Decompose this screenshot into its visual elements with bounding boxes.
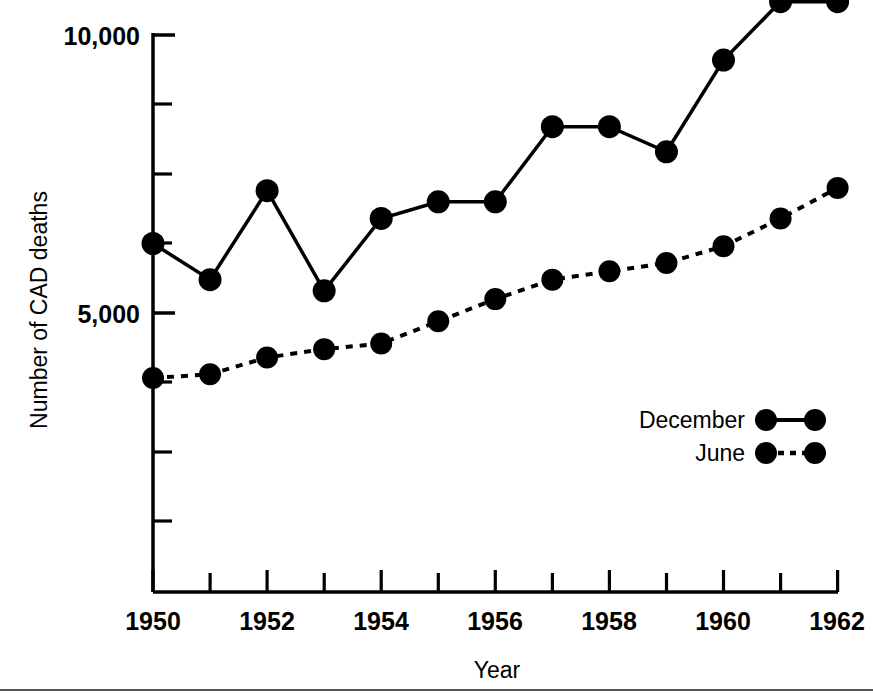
data-point	[427, 310, 449, 332]
data-point	[827, 177, 849, 199]
data-point	[713, 235, 735, 257]
series-december-line	[153, 2, 838, 291]
x-tick-label-1962: 1962	[809, 607, 865, 635]
legend-swatch-december	[755, 409, 826, 431]
figure-bottom-rule	[0, 689, 873, 691]
x-tick-label-1950: 1950	[125, 607, 181, 635]
june-polyline	[153, 188, 838, 378]
data-point	[256, 179, 279, 202]
data-point	[484, 190, 507, 213]
series-june-line	[153, 188, 838, 378]
legend-label-december: December	[639, 407, 745, 433]
legend-label-june: June	[695, 440, 745, 466]
data-point	[256, 346, 278, 368]
x-tick-label-1958: 1958	[581, 607, 637, 635]
data-point	[655, 252, 677, 274]
data-point	[598, 260, 620, 282]
data-point	[313, 279, 336, 302]
x-axis-ticks	[153, 570, 838, 592]
data-point	[484, 288, 506, 310]
data-point	[199, 363, 221, 385]
cad-deaths-line-chart: 10,000 5,000 1950 1952 1954 1956 1958 19…	[0, 0, 873, 700]
x-tick-label-1960: 1960	[695, 607, 751, 635]
data-point	[370, 207, 393, 230]
x-tick-label-1954: 1954	[353, 607, 409, 635]
data-point	[142, 367, 164, 389]
legend-marker-december-right	[804, 409, 826, 431]
y-axis-ticks	[153, 35, 175, 521]
data-point	[826, 0, 849, 13]
data-point	[712, 49, 735, 72]
december-data-points	[142, 0, 850, 302]
legend-swatch-june	[755, 442, 826, 464]
x-axis-tick-labels: 1950 1952 1954 1956 1958 1960 1962	[125, 607, 865, 635]
data-point	[655, 140, 678, 163]
x-axis-title: Year	[474, 657, 521, 683]
data-point	[199, 268, 222, 291]
data-point	[370, 333, 392, 355]
data-point	[427, 190, 450, 213]
data-point	[770, 207, 792, 229]
legend-marker-june-right	[804, 442, 826, 464]
data-point	[541, 269, 563, 291]
y-tick-label-10000: 10,000	[64, 22, 140, 50]
december-polyline	[153, 2, 838, 291]
data-point	[142, 232, 165, 255]
axis-lines	[153, 33, 838, 592]
data-point	[598, 115, 621, 138]
chart-figure: 10,000 5,000 1950 1952 1954 1956 1958 19…	[0, 0, 873, 700]
data-point	[313, 338, 335, 360]
chart-legend: December June	[639, 407, 826, 466]
x-tick-label-1952: 1952	[239, 607, 295, 635]
y-tick-label-5000: 5,000	[77, 300, 140, 328]
data-point	[541, 115, 564, 138]
y-axis-title: Number of CAD deaths	[26, 191, 52, 429]
x-tick-label-1956: 1956	[467, 607, 523, 635]
